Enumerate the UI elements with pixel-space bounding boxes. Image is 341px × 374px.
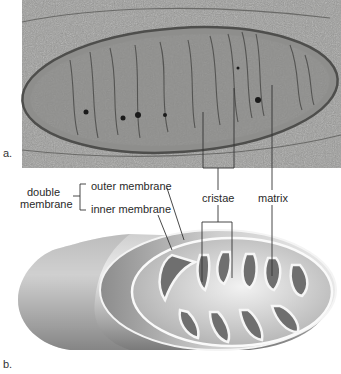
outer-membrane-label: outer membrane: [91, 180, 172, 192]
double-membrane-label-line2: membrane: [20, 198, 73, 210]
inner-membrane-label: inner membrane: [91, 203, 171, 215]
panel-b-label: b.: [3, 358, 12, 370]
cristae-label: cristae: [202, 192, 234, 204]
micrograph-image: [18, 0, 341, 168]
panel-a-label: a.: [3, 147, 12, 159]
double-membrane-label-line1: double: [27, 186, 60, 198]
mitochondrion-drawing: [18, 230, 336, 350]
matrix-label: matrix: [258, 192, 288, 204]
